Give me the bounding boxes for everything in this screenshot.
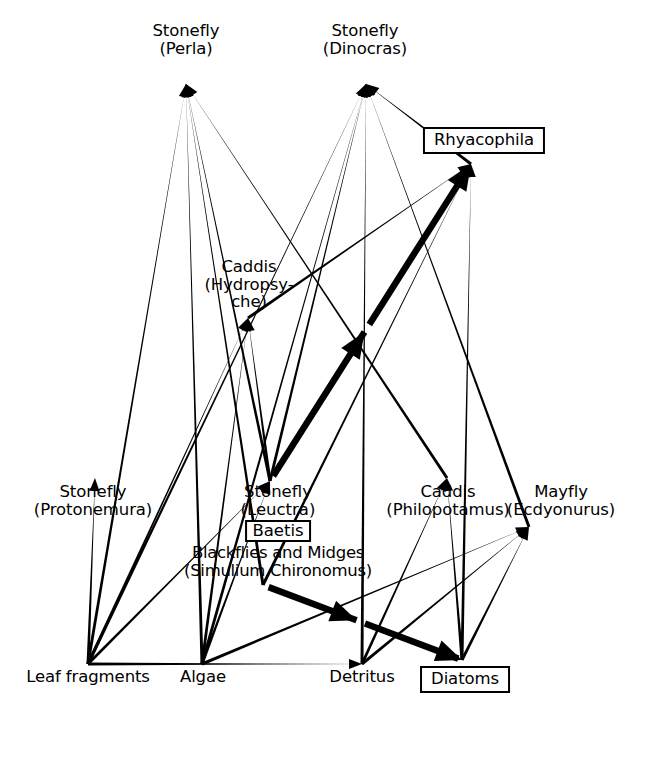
- node-label-line: Leaf fragments: [26, 668, 150, 686]
- node-label-line: Stonefly: [244, 482, 312, 501]
- node-stonefly-perla[interactable]: Stonefly (Perla): [152, 22, 219, 57]
- node-label-line: Stonefly: [34, 483, 152, 501]
- node-rhyacophila[interactable]: Rhyacophila: [423, 127, 545, 154]
- node-label-line: Stonefly: [323, 22, 407, 40]
- node-stonefly-dinocras[interactable]: Stonefly (Dinocras): [323, 22, 407, 57]
- node-label-line: Blackflies and Midges: [192, 543, 364, 562]
- links-layer: [87, 84, 531, 669]
- node-label-line: Caddis: [386, 483, 509, 501]
- node-caddis-hydropsyche[interactable]: Caddis (Hydropsy- che): [204, 258, 293, 311]
- link-diatoms-to-ecdyonurus: [461, 527, 529, 661]
- link-leuctra-to-hydropsyche: [245, 318, 272, 481]
- link-diatoms-to-rhyacophila: [461, 164, 476, 660]
- node-label-line: Caddis: [204, 258, 293, 276]
- node-stonefly-protonemura[interactable]: Stonefly (Protonemura): [34, 483, 152, 518]
- node-baetis-row: Baetis: [184, 520, 372, 542]
- node-baetis[interactable]: Baetis: [245, 520, 310, 542]
- node-label-line: Mayfly: [507, 483, 615, 501]
- node-label-line: (Protonemura): [34, 501, 152, 519]
- node-label-line: Stonefly: [152, 22, 219, 40]
- node-mayfly-ecdyonurus[interactable]: Mayfly (Ecdyonurus): [507, 483, 615, 518]
- food-web-links-svg: [0, 0, 666, 757]
- node-label-line: (Perla): [152, 40, 219, 58]
- node-stonefly-leuctra-genus[interactable]: (Leuctra): [184, 501, 372, 519]
- node-stonefly-leuctra[interactable]: Stonefly: [184, 483, 372, 501]
- node-group-central: Stonefly (Leuctra) Baetis Blackflies and…: [184, 483, 372, 580]
- node-label-line: Detritus: [329, 668, 394, 686]
- node-blackflies-midges[interactable]: Blackflies and Midges: [184, 544, 372, 562]
- node-label-line: (Simulium Chironomus): [184, 561, 372, 580]
- link-leuctra-to-rhyacophila-emphasised: [273, 164, 471, 476]
- node-diatoms[interactable]: Diatoms: [420, 666, 510, 693]
- node-label-line: Diatoms: [431, 670, 499, 688]
- node-label-line: Rhyacophila: [434, 131, 534, 149]
- node-label-line: (Ecdyonurus): [507, 501, 615, 519]
- node-label-line: Algae: [180, 668, 226, 686]
- food-web-figure: Stonefly (Perla) Stonefly (Dinocras) Rhy…: [0, 0, 666, 757]
- node-label-line: (Dinocras): [323, 40, 407, 58]
- node-blackflies-midges-genus[interactable]: (Simulium Chironomus): [184, 562, 372, 580]
- node-detritus[interactable]: Detritus: [329, 668, 394, 686]
- node-label-line: (Philopotamus): [386, 501, 509, 519]
- node-label-line: (Leuctra): [241, 500, 316, 519]
- node-leaf-fragments[interactable]: Leaf fragments: [26, 668, 150, 686]
- node-algae[interactable]: Algae: [180, 668, 226, 686]
- node-label-line: (Hydropsy-: [204, 276, 293, 294]
- node-label-line: che): [204, 293, 293, 311]
- node-caddis-philopotamus[interactable]: Caddis (Philopotamus): [386, 483, 509, 518]
